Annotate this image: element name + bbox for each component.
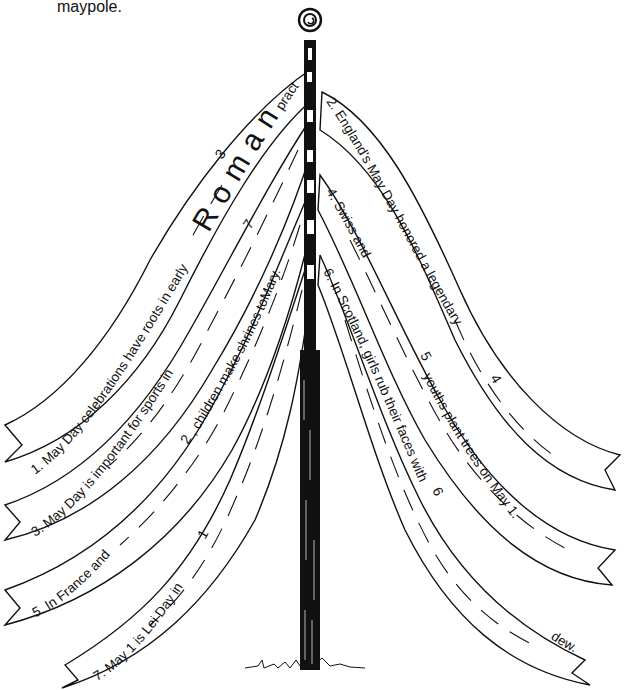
answer-number-5: 5 — [417, 349, 435, 364]
answer-number-6: 6 — [429, 485, 447, 499]
clue-1-answer: Romanpractices. — [0, 0, 302, 236]
spiral-knob-icon — [299, 9, 321, 31]
maypole-illustration: 1. May Day celebrations have roots in ea… — [0, 0, 627, 690]
clue-7-text: 7. May 1 is Lei Day in — [91, 580, 186, 684]
